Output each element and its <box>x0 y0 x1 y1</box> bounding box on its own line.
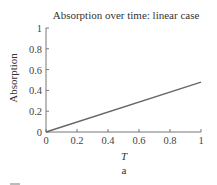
y-tick-label: 0.8 <box>29 44 42 55</box>
y-tick-label: 0 <box>37 127 42 138</box>
y-axis-label: Absorption <box>7 53 19 103</box>
y-tick-label: 0.6 <box>29 65 42 76</box>
y-tick-label: 0.2 <box>29 106 42 117</box>
x-axis: 00.20.40.60.81 T <box>43 129 203 162</box>
subfigure-label: a <box>122 164 127 176</box>
chart-title: Absorption over time: linear case <box>53 9 200 21</box>
y-axis: 00.20.40.60.81 Absorption <box>7 23 49 138</box>
series-line <box>46 82 201 132</box>
chart: Absorption over time: linear case 00.20.… <box>0 0 217 185</box>
x-tick-label: 0.2 <box>70 135 83 146</box>
series-group <box>46 82 201 132</box>
cropped-caption-fragment <box>10 183 20 185</box>
x-axis-label: T <box>121 150 128 162</box>
x-tick-label: 0.8 <box>163 135 176 146</box>
y-tick-label: 1 <box>37 23 42 34</box>
x-tick-label: 0.4 <box>101 135 115 146</box>
x-tick-label: 0.6 <box>132 135 145 146</box>
x-tick-label: 1 <box>198 135 203 146</box>
y-tick-label: 0.4 <box>29 85 43 96</box>
x-tick-label: 0 <box>43 135 48 146</box>
